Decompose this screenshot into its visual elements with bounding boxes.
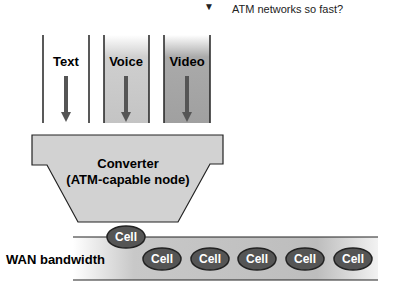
converter-title: Converter (97, 156, 158, 171)
svg-text:Cell: Cell (115, 230, 137, 244)
svg-text:Cell: Cell (294, 252, 316, 266)
svg-text:Cell: Cell (151, 252, 173, 266)
converter-subtitle: (ATM-capable node) (66, 172, 189, 187)
cell-item: Cell (334, 248, 372, 270)
svg-text:Cell: Cell (199, 252, 221, 266)
column-video: Video (164, 35, 210, 123)
column-label-voice: Voice (109, 54, 143, 69)
cell-item: Cell (191, 248, 229, 270)
column-label-text: Text (53, 54, 79, 69)
converter-node: Converter (ATM-capable node) (32, 135, 223, 222)
column-text: Text (43, 35, 89, 123)
column-voice: Voice (104, 35, 149, 123)
column-label-video: Video (169, 54, 204, 69)
svg-text:Cell: Cell (246, 252, 268, 266)
cell-item: Cell (286, 248, 324, 270)
cell-item: Cell (238, 248, 276, 270)
svg-text:Cell: Cell (342, 252, 364, 266)
wan-label: WAN bandwidth (6, 252, 105, 267)
cell-entering: Cell (107, 226, 145, 248)
cell-item: Cell (143, 248, 181, 270)
atm-diagram: Text Voice Video Converter (ATM-capable … (0, 0, 397, 290)
